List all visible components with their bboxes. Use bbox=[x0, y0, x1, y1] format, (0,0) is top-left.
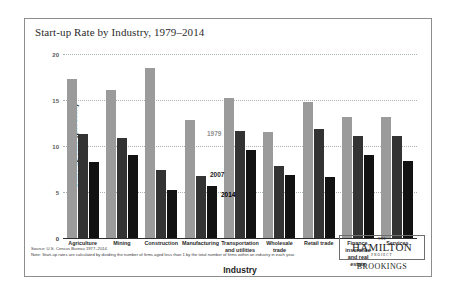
y-tick-label-0: 0 bbox=[56, 236, 59, 242]
y-tick-label-15: 15 bbox=[52, 98, 59, 104]
bar-group bbox=[378, 54, 417, 238]
bar bbox=[392, 136, 402, 238]
bar-group bbox=[142, 54, 181, 238]
logo-brookings-text: BROOKINGS bbox=[339, 262, 425, 271]
bar-group bbox=[260, 54, 299, 238]
bar-group bbox=[102, 54, 141, 238]
y-tick-label-5: 5 bbox=[56, 190, 59, 196]
method-note: Note: Start-up rates are calculated by d… bbox=[31, 252, 331, 258]
bar-groups bbox=[63, 54, 417, 238]
bar bbox=[353, 136, 363, 238]
legend-label-1979: 1979 bbox=[207, 130, 221, 137]
bar bbox=[196, 176, 206, 238]
hamilton-project-logo: THE HAMILTON PROJECT BROOKINGS bbox=[339, 235, 425, 271]
logo-box: THE HAMILTON PROJECT bbox=[339, 235, 425, 260]
bar-group bbox=[220, 54, 259, 238]
bar bbox=[403, 161, 413, 238]
bar-group bbox=[63, 54, 102, 238]
y-tick-label-20: 20 bbox=[52, 52, 59, 58]
bar bbox=[325, 177, 335, 238]
legend-label-2007: 2007 bbox=[210, 171, 224, 178]
bar bbox=[314, 129, 324, 238]
plot-area: 05101520 bbox=[63, 54, 417, 238]
bar bbox=[342, 117, 352, 238]
legend-label-2014: 2014 bbox=[221, 191, 235, 198]
bar-group bbox=[299, 54, 338, 238]
bar bbox=[145, 68, 155, 238]
bar bbox=[285, 175, 295, 238]
figure-panel: Start-up Rate by Industry, 1979–2014 Sta… bbox=[24, 18, 432, 277]
bar-group bbox=[338, 54, 377, 238]
bar bbox=[235, 131, 245, 238]
bar bbox=[67, 79, 77, 238]
bar bbox=[156, 170, 166, 238]
bar bbox=[167, 190, 177, 238]
bar bbox=[274, 166, 284, 238]
bar bbox=[78, 134, 88, 238]
chart-title: Start-up Rate by Industry, 1979–2014 bbox=[35, 26, 204, 38]
bar bbox=[106, 90, 116, 238]
y-axis-title-container: Start-up rate (percent) bbox=[33, 54, 47, 238]
bar-group bbox=[181, 54, 220, 238]
bar bbox=[207, 186, 217, 238]
bar bbox=[381, 117, 391, 238]
bar bbox=[185, 120, 195, 238]
bar bbox=[246, 150, 256, 238]
bar bbox=[89, 162, 99, 238]
bar bbox=[364, 155, 374, 238]
logo-hamilton-text: HAMILTON bbox=[343, 241, 421, 253]
bar bbox=[128, 155, 138, 238]
bar bbox=[224, 98, 234, 238]
bar bbox=[263, 132, 273, 238]
bar bbox=[303, 102, 313, 238]
logo-project-text: PROJECT bbox=[343, 253, 421, 257]
bar bbox=[117, 138, 127, 238]
y-tick-label-10: 10 bbox=[52, 144, 59, 150]
footnotes: Source: U.S. Census Bureau 1977–2014. No… bbox=[31, 246, 331, 258]
